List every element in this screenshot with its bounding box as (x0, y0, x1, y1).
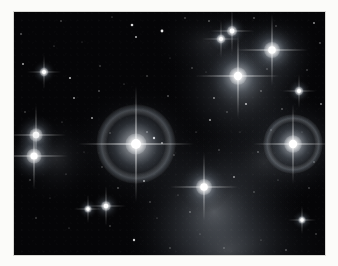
faint-star (306, 69, 307, 70)
faint-star (149, 201, 150, 202)
faint-star (319, 42, 321, 44)
faint-star (218, 149, 219, 150)
faint-star (257, 151, 259, 153)
photograph-frame (14, 12, 325, 255)
faint-star (191, 67, 192, 68)
faint-star (82, 42, 83, 43)
faint-star (285, 249, 287, 251)
faint-star (24, 111, 25, 112)
faint-star (189, 211, 191, 213)
faint-star (73, 97, 75, 99)
faint-star (131, 24, 134, 27)
faint-star (35, 217, 36, 218)
faint-star (146, 75, 147, 76)
faint-star (123, 83, 124, 84)
faint-star (281, 108, 283, 110)
faint-star (226, 111, 227, 112)
faint-star (240, 132, 241, 133)
faint-star (169, 247, 170, 248)
faint-star (253, 191, 254, 192)
faint-star (135, 36, 137, 38)
faint-star (133, 239, 135, 241)
faint-star (260, 239, 261, 240)
faint-star (117, 187, 119, 189)
faint-star (53, 45, 54, 46)
faint-star (233, 176, 235, 178)
faint-star (313, 22, 315, 24)
faint-star (98, 90, 100, 92)
faint-star (65, 173, 66, 174)
faint-star (20, 33, 22, 35)
faint-star (61, 121, 62, 122)
faint-star (91, 117, 93, 119)
faint-star (177, 194, 178, 195)
faint-star (320, 103, 322, 105)
faint-star (99, 65, 100, 66)
faint-star (209, 119, 211, 121)
faint-star (223, 247, 224, 248)
faint-star (156, 217, 157, 218)
night-sky-image (14, 12, 325, 255)
faint-star (195, 131, 196, 132)
faint-star (161, 30, 164, 33)
faint-star (170, 58, 171, 59)
faint-star (68, 227, 69, 228)
faint-star (69, 77, 71, 79)
faint-star (184, 17, 185, 18)
faint-star (111, 16, 112, 17)
faint-star (167, 95, 169, 97)
faint-star (277, 179, 278, 180)
faint-star (22, 63, 24, 65)
faint-star (315, 233, 316, 234)
faint-star (308, 187, 309, 188)
faint-star (50, 198, 51, 199)
faint-star (199, 233, 200, 234)
faint-star (60, 20, 61, 21)
faint-star (84, 152, 85, 153)
faint-star (208, 20, 210, 22)
faint-star (109, 225, 110, 226)
faint-star (253, 17, 255, 19)
